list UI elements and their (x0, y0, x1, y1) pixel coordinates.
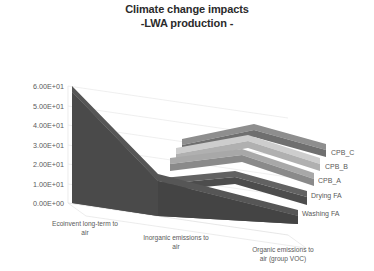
x-axis-labels: Ecoinvent long-term to air Inorganic emi… (52, 220, 314, 263)
y-tick-label: 3.00E+01 (33, 141, 64, 150)
x-category-label: air (172, 243, 180, 250)
legend-item-cpb-a[interactable]: CPB_A (318, 177, 341, 185)
chart-container: Climate change impacts -LWA production - (0, 0, 374, 271)
chart-svg: 6.00E+01 5.00E+01 4.00E+01 3.00E+01 2.00… (0, 0, 374, 271)
x-category-label: air (81, 229, 89, 236)
y-axis-labels: 6.00E+01 5.00E+01 4.00E+01 3.00E+01 2.00… (33, 82, 64, 208)
x-category-label: Ecoinvent long-term to (52, 220, 118, 228)
x-category-label: Organic emissions to (252, 246, 314, 254)
x-category-label: Inorganic emissions to (143, 234, 209, 242)
y-tick-label: 4.00E+01 (33, 121, 64, 130)
y-tick-label: 1.00E+01 (33, 180, 64, 189)
y-tick-label: 2.00E+01 (33, 160, 64, 169)
x-category-label: air (group VOC) (260, 255, 307, 263)
y-tick-label: 6.00E+01 (33, 82, 64, 91)
series-washing-fa-body (72, 92, 158, 216)
legend-item-washing-fa[interactable]: Washing FA (302, 210, 340, 218)
y-tick-label: 5.00E+01 (33, 102, 64, 111)
legend-item-drying-fa[interactable]: Drying FA (311, 192, 342, 200)
y-tick-label: 0.00E+00 (33, 199, 64, 208)
legend-item-cpb-b[interactable]: CPB_B (325, 163, 348, 171)
legend-item-cpb-c[interactable]: CPB_C (331, 149, 354, 157)
